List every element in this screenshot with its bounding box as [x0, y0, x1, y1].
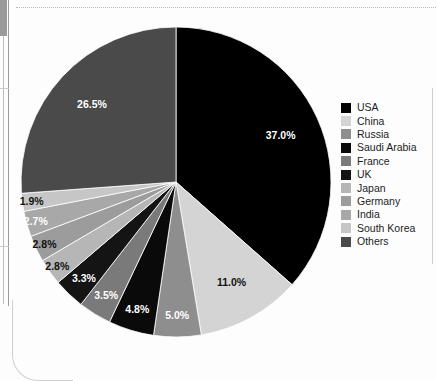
legend-swatch — [341, 170, 351, 180]
legend-item[interactable]: Germany — [341, 195, 437, 208]
pie-slice-label: 37.0% — [266, 129, 296, 141]
legend-item-label: China — [357, 116, 384, 127]
legend-item-label: Saudi Arabia — [357, 142, 417, 153]
legend-item-label: Germany — [357, 196, 400, 207]
legend-swatch — [341, 223, 351, 233]
pie-slice-label: 3.3% — [72, 272, 97, 284]
pie-slice-label: 5.0% — [165, 309, 190, 321]
legend-item-label: France — [357, 156, 390, 167]
legend-item[interactable]: Others — [341, 235, 437, 248]
pie-slice-label: 2.8% — [45, 260, 70, 272]
legend-item[interactable]: Saudi Arabia — [341, 141, 437, 154]
legend-swatch — [341, 103, 351, 113]
legend-item-label: South Korea — [357, 223, 415, 234]
pie-slice[interactable] — [21, 27, 176, 193]
legend-swatch — [341, 156, 351, 166]
pie-slice-label: 4.8% — [125, 303, 150, 315]
legend-item-label: UK — [357, 169, 372, 180]
legend-swatch — [341, 196, 351, 206]
legend-item[interactable]: India — [341, 208, 437, 221]
chart-legend: USAChinaRussiaSaudi ArabiaFranceUKJapanG… — [341, 101, 437, 248]
legend-swatch — [341, 183, 351, 193]
legend-swatch — [341, 116, 351, 126]
legend-divider-rule — [432, 88, 433, 264]
legend-item[interactable]: UK — [341, 168, 437, 181]
pie-slice-group — [21, 27, 331, 337]
legend-item-label: India — [357, 209, 380, 220]
pie-slice-label: 11.0% — [217, 276, 247, 288]
legend-swatch — [341, 129, 351, 139]
legend-item[interactable]: Russia — [341, 128, 437, 141]
legend-item[interactable]: USA — [341, 101, 437, 114]
legend-item[interactable]: South Korea — [341, 222, 437, 235]
pie-slice-label: 3.5% — [94, 289, 119, 301]
pie-slice-label: 2.7% — [24, 215, 49, 227]
legend-item[interactable]: France — [341, 155, 437, 168]
legend-swatch — [341, 237, 351, 247]
legend-swatch — [341, 210, 351, 220]
legend-item-label: Russia — [357, 129, 389, 140]
legend-item-label: Others — [357, 236, 389, 247]
pie-slice-label: 2.8% — [33, 238, 58, 250]
pie-slice-label: 1.9% — [20, 195, 45, 207]
legend-item[interactable]: Japan — [341, 181, 437, 194]
legend-item-label: USA — [357, 102, 379, 113]
legend-swatch — [341, 143, 351, 153]
legend-item[interactable]: China — [341, 114, 437, 127]
pie-slice-label: 26.5% — [77, 98, 107, 110]
legend-item-label: Japan — [357, 183, 386, 194]
